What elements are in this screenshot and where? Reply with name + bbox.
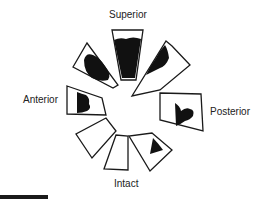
- sector-posterior-inferior: [129, 133, 172, 171]
- sector-anterior: [67, 86, 106, 115]
- sector-superior: [112, 30, 143, 80]
- label-posterior: Posterior: [210, 106, 250, 118]
- label-superior: Superior: [109, 9, 147, 21]
- sector-superior-anterior: [73, 43, 118, 88]
- label-intact: Intact: [114, 178, 138, 190]
- sector-posterior: [160, 93, 203, 131]
- label-anterior: Anterior: [23, 94, 58, 106]
- scale-bar: [0, 195, 48, 199]
